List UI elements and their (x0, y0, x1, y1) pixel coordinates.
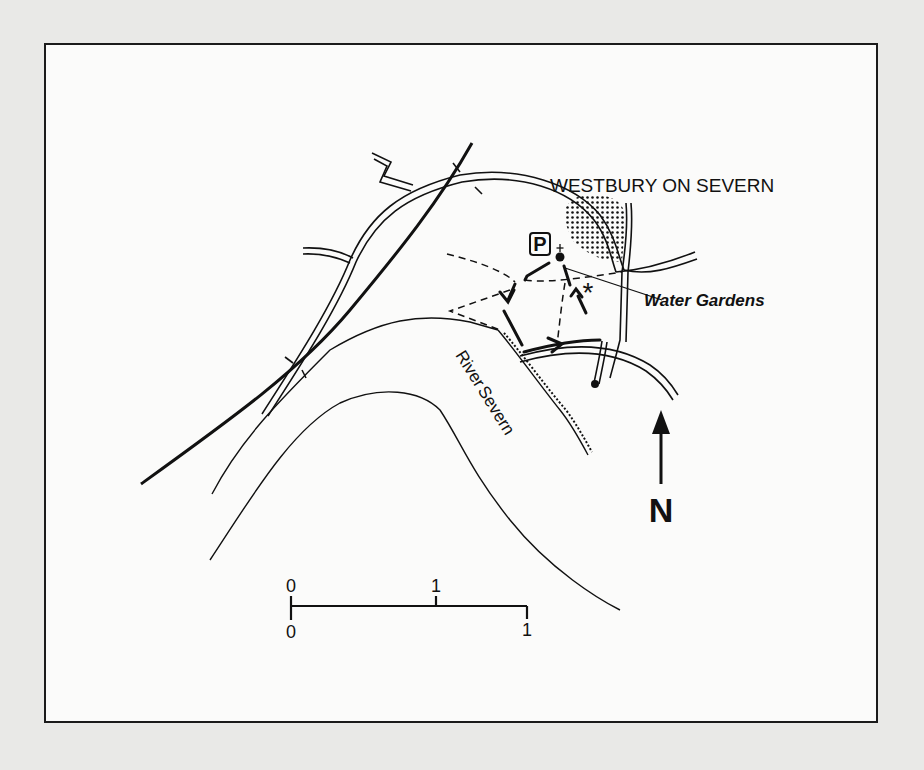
scale-top-label-1: 1 (431, 576, 441, 596)
side-road-northwest (372, 153, 413, 191)
place-label: WESTBURY ON SEVERN (550, 175, 774, 196)
footpaths (447, 254, 622, 345)
village-area (564, 195, 625, 262)
parking-icon: P (530, 233, 550, 255)
north-arrow-icon (652, 410, 670, 484)
svg-text:P: P (533, 233, 546, 255)
river-label-severn: Severn (474, 383, 519, 439)
scale-bottom-label-1: 1 (522, 620, 532, 640)
side-road-west (303, 248, 353, 263)
church-icon (556, 244, 565, 262)
viewpoint-asterisk-icon: * (583, 277, 594, 308)
lane-south (520, 341, 678, 400)
route-map: P * WESTBURY ON SEVERN Water Gardens Riv… (0, 0, 924, 770)
river-label-river: River (452, 347, 489, 391)
feature-label: Water Gardens (644, 291, 765, 310)
scale-top-label-0: 0 (286, 576, 296, 596)
river-banks (210, 318, 620, 610)
lane-end-point (591, 380, 599, 388)
north-label: N (649, 491, 674, 529)
scale-bar (291, 596, 527, 620)
river-embankment (504, 333, 592, 452)
scale-bottom-label-0: 0 (286, 622, 296, 642)
railway-line (141, 143, 472, 484)
